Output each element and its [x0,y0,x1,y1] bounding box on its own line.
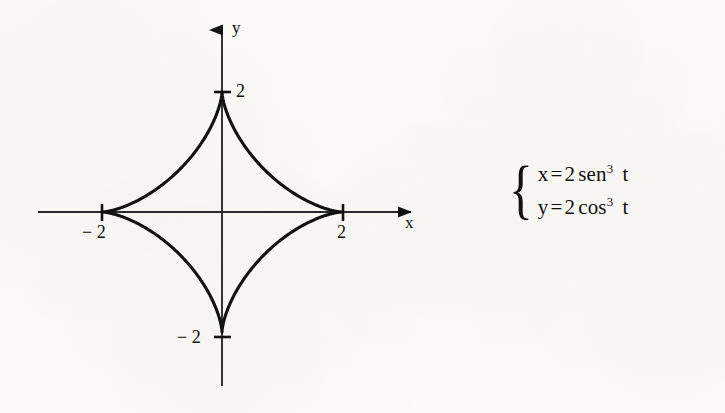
equation-lines: x=2sen3t y=2cos3t [538,158,629,224]
equation-y-coefficient: 2 [564,195,575,219]
equation-x-variable: t [622,162,628,186]
equation-y-variable: t [622,195,628,219]
system-brace: { [509,156,533,222]
y-axis-label: y [232,19,241,36]
tick-label-y-negative: − 2 [177,328,201,346]
equation-x: x=2sen3t [538,158,629,191]
equation-x-equals: = [550,162,562,186]
tick-label-x-negative: − 2 [82,223,106,241]
equation-x-coefficient: 2 [564,162,575,186]
equation-x-exponent: 3 [607,161,614,176]
tick-label-y-positive: 2 [236,82,245,100]
equation-y-function: cos [578,195,607,219]
tick-label-x-positive: 2 [337,223,346,241]
parametric-equation-system: { x=2sen3t y=2cos3t [505,158,628,224]
equation-y: y=2cos3t [538,191,629,224]
equation-x-lhs: x [538,162,549,186]
figure-page: y x 2 − 2 2 − 2 { x=2sen3t y=2cos3t [0,0,725,413]
equation-y-equals: = [550,195,562,219]
equation-x-function: sen [578,162,607,186]
equation-y-exponent: 3 [607,194,614,209]
equation-y-lhs: y [538,195,549,219]
x-axis-label: x [405,214,414,231]
